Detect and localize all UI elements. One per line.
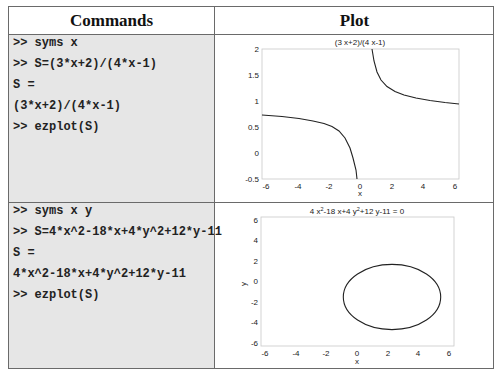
svg-text:-2: -2 <box>325 182 333 191</box>
plot-1-xlabel: x <box>358 189 362 198</box>
svg-text:-6: -6 <box>261 349 269 358</box>
svg-text:-4: -4 <box>251 318 259 327</box>
plot-2-xlabel: x <box>355 357 359 366</box>
svg-text:4: 4 <box>254 236 259 245</box>
svg-text:-4: -4 <box>294 182 302 191</box>
plot-2-title: 4 x2-18 x+4 y2+12 y-11 = 0 <box>310 206 405 216</box>
svg-text:2: 2 <box>255 45 260 54</box>
svg-text:2: 2 <box>386 349 391 358</box>
svg-text:-2: -2 <box>322 349 330 358</box>
svg-text:-0.5: -0.5 <box>245 175 259 184</box>
plot-1-title: (3 x+2)/(4 x-1) <box>335 38 386 47</box>
svg-text:4: 4 <box>416 349 421 358</box>
plot-2-yticks: 6 4 2 0 -2 -4 -6 <box>251 216 259 348</box>
svg-text:-6: -6 <box>262 182 270 191</box>
plot-1-yticks: 2 1.5 1 0.5 0 -0.5 <box>245 45 259 184</box>
plot-1: (3 x+2)/(4 x-1) 2 1.5 1 0.5 0 -0.5 -6 -4… <box>245 38 459 198</box>
svg-text:2: 2 <box>390 182 395 191</box>
svg-text:4: 4 <box>421 182 426 191</box>
svg-text:0: 0 <box>254 277 259 286</box>
svg-text:-2: -2 <box>251 298 259 307</box>
plot-2-ylabel: y <box>239 282 248 286</box>
svg-text:6: 6 <box>254 216 259 225</box>
svg-text:6: 6 <box>453 182 458 191</box>
svg-text:-4: -4 <box>292 349 300 358</box>
svg-text:1: 1 <box>255 97 260 106</box>
svg-text:1.5: 1.5 <box>248 71 260 80</box>
plots-layer: (3 x+2)/(4 x-1) 2 1.5 1 0.5 0 -0.5 -6 -4… <box>0 0 504 373</box>
svg-text:6: 6 <box>447 349 452 358</box>
svg-text:0: 0 <box>255 149 260 158</box>
svg-text:0.5: 0.5 <box>248 123 260 132</box>
svg-text:-6: -6 <box>251 339 259 348</box>
plot-2: 4 x2-18 x+4 y2+12 y-11 = 0 6 4 2 0 -2 -4… <box>239 206 454 366</box>
svg-text:2: 2 <box>254 257 259 266</box>
